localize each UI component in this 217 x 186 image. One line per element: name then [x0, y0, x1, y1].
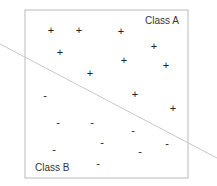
- plus-marker: +: [163, 59, 169, 71]
- minus-marker: -: [56, 116, 60, 128]
- minus-marker: -: [165, 137, 169, 149]
- plus-marker: +: [121, 54, 127, 66]
- minus-marker: -: [131, 124, 135, 136]
- plus-marker: +: [151, 40, 157, 52]
- minus-marker: -: [138, 145, 142, 157]
- minus-marker: -: [96, 157, 100, 169]
- classification-diagram: ++++++++++ --------- Class A Class B: [0, 0, 217, 186]
- plus-marker: +: [87, 67, 93, 79]
- plus-marker: +: [76, 24, 82, 36]
- plus-marker: +: [57, 46, 63, 58]
- class-b-label: Class B: [35, 162, 70, 173]
- plus-marker: +: [118, 25, 124, 37]
- class-a-label: Class A: [145, 15, 179, 26]
- plus-marker: +: [48, 24, 54, 36]
- minus-marker: -: [43, 89, 47, 101]
- minus-marker: -: [52, 143, 56, 155]
- plus-marker: +: [132, 88, 138, 100]
- plus-marker: +: [170, 102, 176, 114]
- minus-marker: -: [90, 116, 94, 128]
- minus-marker: -: [100, 136, 104, 148]
